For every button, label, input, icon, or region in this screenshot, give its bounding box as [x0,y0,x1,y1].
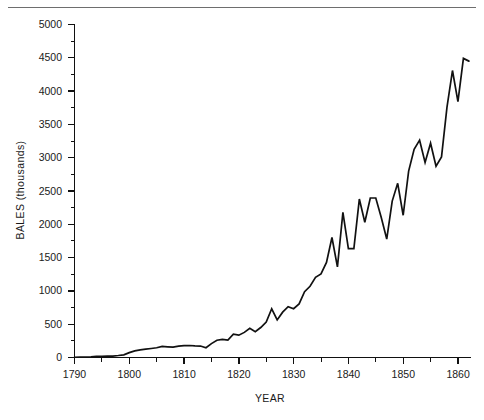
y-axis-ticks: 0 500 1000 1500 2000 2500 [39,18,75,363]
y-tick-4000: 4000 [39,85,75,97]
y-tick-3500: 3500 [39,118,75,130]
y-tick-500: 500 [44,318,74,330]
y-tick-3000: 3000 [39,151,75,163]
y-tick-1500: 1500 [39,251,75,263]
data-series-line [75,58,469,357]
x-tick-label: 1860 [446,368,470,380]
y-tick-2000: 2000 [39,218,75,230]
x-tick-label: 1840 [337,368,361,380]
x-tick-label: 1850 [392,368,416,380]
y-tick-label: 0 [56,351,62,363]
y-tick-1000: 1000 [39,284,75,296]
y-tick-4500: 4500 [39,51,75,63]
y-tick-label: 5000 [39,18,63,30]
y-tick-label: 4000 [39,85,63,97]
y-axis-title: BALES (thousands) [14,140,26,239]
chart-figure: 0 500 1000 1500 2000 2500 [0,0,484,420]
y-tick-0: 0 [56,351,74,363]
axis-lines [75,24,471,358]
x-tick-1850: 1850 [392,358,416,381]
x-axis-title: YEAR [255,392,285,404]
y-tick-label: 2000 [39,218,63,230]
x-tick-label: 1810 [172,368,196,380]
y-tick-label: 2500 [39,185,63,197]
y-tick-label: 1500 [39,251,63,263]
x-tick-label: 1790 [63,368,87,380]
y-tick-label: 500 [44,318,62,330]
x-tick-label: 1800 [118,368,142,380]
x-tick-1810: 1810 [172,358,196,381]
x-tick-1800: 1800 [118,358,142,381]
x-tick-1860: 1860 [446,358,470,381]
y-tick-5000: 5000 [39,18,75,30]
x-tick-label: 1830 [282,368,306,380]
x-tick-1790: 1790 [63,358,87,381]
x-tick-1830: 1830 [282,358,306,381]
y-tick-label: 4500 [39,51,63,63]
y-tick-label: 3500 [39,118,63,130]
x-tick-label: 1820 [227,368,251,380]
y-tick-label: 1000 [39,284,63,296]
x-tick-1840: 1840 [337,358,361,381]
y-tick-label: 3000 [39,151,63,163]
line-chart-svg: 0 500 1000 1500 2000 2500 [0,0,484,420]
x-tick-1820: 1820 [227,358,251,381]
y-tick-2500: 2500 [39,185,75,197]
